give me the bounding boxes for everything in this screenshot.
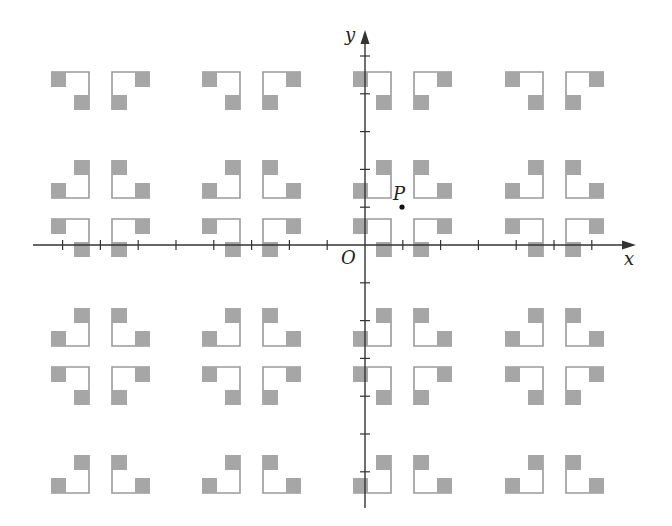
motif-square [51, 367, 66, 382]
motif-square [112, 95, 127, 110]
motif-square [528, 308, 543, 323]
motif-square [135, 219, 150, 234]
motif [112, 308, 150, 346]
motif-square [528, 95, 543, 110]
motif-square [505, 331, 520, 346]
motif-square [437, 331, 452, 346]
motif [566, 308, 604, 346]
motif [202, 72, 240, 110]
motif-square [437, 478, 452, 493]
motif-square [353, 478, 368, 493]
motif [51, 308, 89, 346]
motif-square [353, 183, 368, 198]
motif-square [286, 478, 301, 493]
motif-square [589, 72, 604, 87]
motif [112, 160, 150, 198]
motif [414, 455, 452, 493]
motif-square [437, 183, 452, 198]
motif-square [505, 478, 520, 493]
motif-square [566, 242, 581, 257]
motif-square [566, 160, 581, 175]
motif-square [51, 478, 66, 493]
motif-square [589, 331, 604, 346]
motif-square [263, 308, 278, 323]
motif [202, 367, 240, 405]
motif [566, 160, 604, 198]
motif-square [225, 242, 240, 257]
motif [51, 367, 89, 405]
motif [566, 455, 604, 493]
motif-square [74, 308, 89, 323]
motif-square [135, 478, 150, 493]
motif-square [286, 219, 301, 234]
point-p-label: P [393, 185, 405, 203]
motif-square [74, 95, 89, 110]
motif-square [376, 242, 391, 257]
motif-square [225, 160, 240, 175]
motif-square [112, 390, 127, 405]
motif [505, 455, 543, 493]
motif [566, 367, 604, 405]
motif-square [135, 331, 150, 346]
motif-square [202, 219, 217, 234]
motif-square [263, 390, 278, 405]
motif-square [353, 367, 368, 382]
motif-square [353, 331, 368, 346]
motif-square [225, 390, 240, 405]
coordinate-plane-figure [0, 0, 672, 526]
motif-square [414, 95, 429, 110]
motif-square [353, 219, 368, 234]
motif [414, 160, 452, 198]
motif-square [263, 95, 278, 110]
motif-square [414, 242, 429, 257]
motif-square [202, 367, 217, 382]
motif-square [112, 308, 127, 323]
motif-square [528, 455, 543, 470]
motif [51, 455, 89, 493]
motif-square [263, 160, 278, 175]
motif-square [202, 478, 217, 493]
motif [263, 455, 301, 493]
motif-square [376, 455, 391, 470]
motif [414, 367, 452, 405]
x-axis-label: x [624, 250, 634, 268]
motif [263, 160, 301, 198]
motif [414, 219, 452, 257]
motif-square [589, 478, 604, 493]
motif-square [225, 455, 240, 470]
motif-square [202, 183, 217, 198]
motif [353, 160, 391, 198]
motif [112, 367, 150, 405]
motif-square [51, 183, 66, 198]
motif-square [528, 242, 543, 257]
motif-square [225, 95, 240, 110]
motif-square [286, 72, 301, 87]
motif [263, 367, 301, 405]
motif [51, 72, 89, 110]
motif-square [589, 367, 604, 382]
motif [202, 160, 240, 198]
motif [414, 308, 452, 346]
motif [51, 160, 89, 198]
motif [353, 367, 391, 405]
motif-square [74, 390, 89, 405]
motif-square [414, 455, 429, 470]
motif [202, 308, 240, 346]
y-axis-arrow-icon [361, 30, 370, 44]
motif-square [74, 455, 89, 470]
motif [505, 308, 543, 346]
motif-tiling [51, 72, 604, 493]
origin-label: O [341, 249, 356, 267]
motif [353, 72, 391, 110]
motif-square [566, 308, 581, 323]
motif-square [74, 160, 89, 175]
motif [505, 72, 543, 110]
motif-square [566, 95, 581, 110]
motif-square [505, 367, 520, 382]
motif-square [437, 72, 452, 87]
motif-square [505, 219, 520, 234]
motif [505, 219, 543, 257]
motif-square [112, 242, 127, 257]
motif-square [135, 367, 150, 382]
motif-square [112, 455, 127, 470]
